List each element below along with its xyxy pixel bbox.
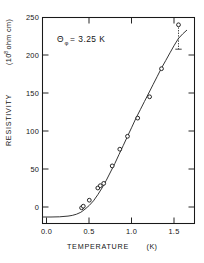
y-tick-label-150: 150 <box>26 89 39 98</box>
x-axis-title: TEMPERATURE (K) <box>67 242 157 251</box>
x-axis-title-text: TEMPERATURE <box>67 242 129 251</box>
data-point <box>177 23 181 27</box>
y-axis-unit-exponent: -8 <box>3 51 9 56</box>
data-point <box>118 147 122 151</box>
data-point <box>160 67 164 71</box>
figure-container: 250 200 150 100 50 0 0.0 0.5 1.0 1.5 TEM… <box>0 0 204 263</box>
y-tick-label-100: 100 <box>26 127 39 136</box>
theta-annotation: Θ φ = 3.25 K <box>57 34 105 46</box>
data-point <box>81 204 85 208</box>
data-point <box>87 198 91 202</box>
y-axis-unit: (10 -8 ohm cm) <box>3 19 13 65</box>
y-tick-label-250: 250 <box>26 13 39 22</box>
theta-subscript: φ <box>65 40 69 46</box>
x-tick-label-1-0: 1.0 <box>126 227 137 236</box>
data-point <box>102 182 106 186</box>
y-axis-ticks <box>43 18 49 208</box>
plot-frame <box>43 18 195 224</box>
data-points <box>80 23 181 210</box>
y-axis-unit-suffix: ohm cm) <box>4 19 13 50</box>
x-tick-label-0-0: 0.0 <box>41 227 52 236</box>
data-point <box>136 116 140 120</box>
theta-symbol: Θ <box>57 34 64 44</box>
y-axis-ticks-right <box>189 55 195 207</box>
y-axis-title: RESISTIVITY <box>4 94 13 146</box>
x-axis-ticks-top <box>89 18 174 24</box>
resistivity-vs-temperature-chart: 250 200 150 100 50 0 0.0 0.5 1.0 1.5 TEM… <box>0 0 204 263</box>
error-bar-group <box>175 25 181 49</box>
x-tick-label-1-5: 1.5 <box>169 227 180 236</box>
y-tick-label-50: 50 <box>30 165 39 174</box>
theta-value: = 3.25 K <box>70 34 105 44</box>
fit-curve-path <box>43 30 188 217</box>
x-axis-unit-text: (K) <box>147 242 158 251</box>
x-tick-label-0-5: 0.5 <box>84 227 95 236</box>
data-point <box>126 134 130 138</box>
data-point <box>110 164 114 168</box>
data-point <box>148 95 152 99</box>
x-axis-ticks <box>47 218 175 224</box>
y-tick-label-200: 200 <box>26 51 39 60</box>
y-tick-label-0: 0 <box>35 203 39 212</box>
y-axis-title-text: RESISTIVITY <box>4 94 13 146</box>
